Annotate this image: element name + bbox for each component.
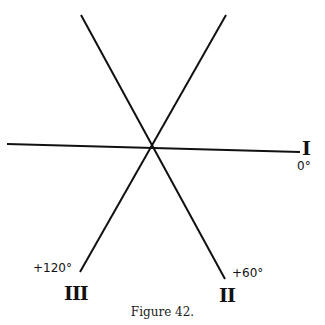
axis-label-III: III xyxy=(64,284,88,303)
angle-label-0: 0° xyxy=(297,160,311,172)
axes-diagram xyxy=(0,0,325,325)
angle-label-120: +120° xyxy=(33,262,72,274)
angle-label-60: +60° xyxy=(232,267,263,279)
axis-label-I: I xyxy=(302,139,310,158)
axis-label-II: II xyxy=(219,286,235,305)
figure-caption: Figure 42. xyxy=(0,305,325,319)
